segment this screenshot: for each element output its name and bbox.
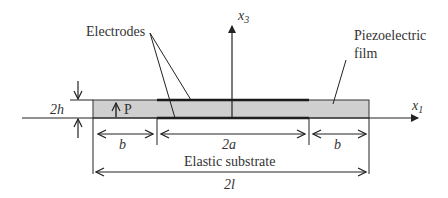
piezoelectric-film bbox=[93, 100, 369, 118]
thickness-label: 2h bbox=[50, 102, 64, 117]
substrate-label: Elastic substrate bbox=[184, 154, 275, 169]
x1-label: x1 bbox=[411, 98, 423, 115]
electrode-leader-2 bbox=[150, 33, 191, 100]
piezo-label-line2: film bbox=[354, 46, 377, 61]
electrodes-label: Electrodes bbox=[86, 24, 145, 39]
2a-label: 2a bbox=[222, 137, 236, 152]
2l-label: 2l bbox=[224, 177, 235, 192]
b-right-label: b bbox=[334, 137, 341, 152]
piezo-label-line1: Piezoelectric bbox=[354, 28, 426, 43]
piezo-film-diagram: x1 x3 Electrodes Piezoelectric film 2h P… bbox=[0, 0, 448, 198]
polarization-label: P bbox=[124, 102, 132, 117]
x3-label: x3 bbox=[237, 8, 249, 25]
piezo-leader bbox=[333, 60, 346, 104]
b-left-label: b bbox=[119, 137, 126, 152]
